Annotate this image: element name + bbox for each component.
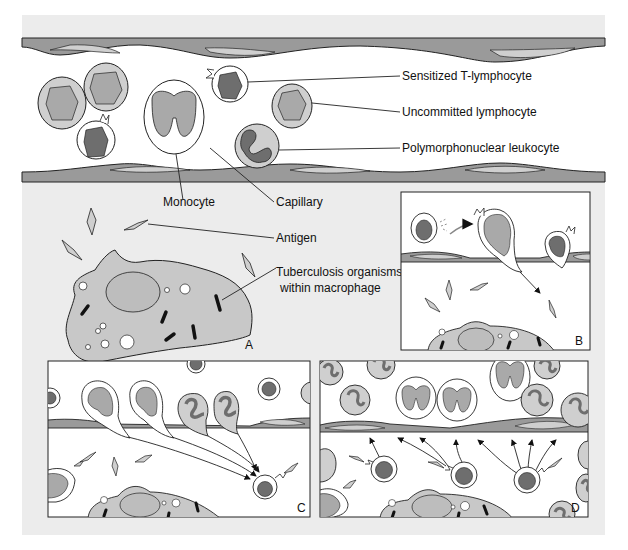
label-monocyte: Monocyte [163,195,215,209]
uncommitted-lymphocyte-cell [84,63,128,111]
monocyte-cell [396,377,436,419]
panel-letter-d: D [571,501,580,515]
pmn-cell [317,359,343,385]
tb-immune-response-diagram: Sensitized T-lymphocyte Uncommitted lymp… [0,0,628,550]
polymorphonuclear-leukocyte-cell [235,124,279,168]
uncommitted-lymphocyte-cell [38,77,86,129]
macrophage-nucleus [106,272,160,312]
label-polymorphonuclear-leukocyte: Polymorphonuclear leukocyte [402,141,560,155]
label-sensitized-t-lymphocyte: Sensitized T-lymphocyte [402,69,532,83]
panel-letter-a: A [245,338,253,352]
label-tb-organisms-line1: Tuberculosis organisms [276,265,402,279]
panel-d: D [317,351,598,527]
monocyte-cell [144,80,204,154]
pmn-cell [340,385,370,415]
panel-letter-b: B [575,334,583,348]
label-antigen: Antigen [276,231,317,245]
label-tb-organisms-line2: within macrophage [279,281,381,295]
pmn-cell [521,384,553,416]
panel-letter-c: C [297,501,306,515]
monocyte-cell [437,379,477,421]
panel-b: B [401,192,590,352]
label-capillary: Capillary [276,195,323,209]
panel-c: C [40,355,323,520]
label-uncommitted-lymphocyte: Uncommitted lymphocyte [402,105,537,119]
capillary-section: Sensitized T-lymphocyte Uncommitted lymp… [22,38,605,202]
uncommitted-lymphocyte-cell [272,84,312,128]
